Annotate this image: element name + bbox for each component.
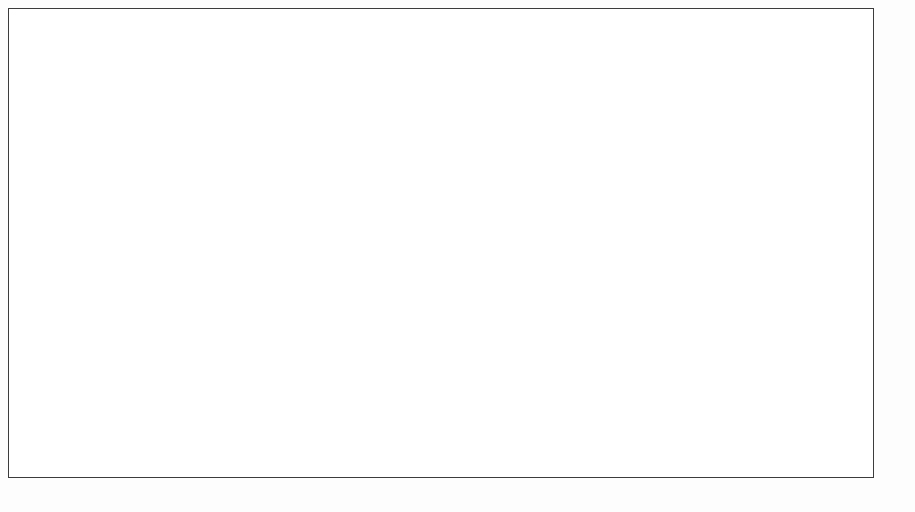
stacked-bar-chart (57, 48, 873, 470)
scanned-page (0, 0, 915, 512)
